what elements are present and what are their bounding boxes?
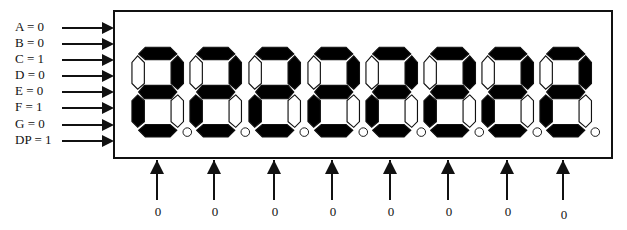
digit-8 bbox=[539, 43, 599, 143]
digit-3 bbox=[248, 43, 308, 143]
input-label-f: F = 1 bbox=[15, 100, 43, 114]
select-arrow-3 bbox=[273, 160, 275, 200]
select-label-5: 0 bbox=[381, 204, 401, 220]
digit-2 bbox=[189, 43, 249, 143]
input-label-dp: DP = 1 bbox=[15, 133, 51, 147]
select-label-2: 0 bbox=[205, 204, 225, 220]
select-label-6: 0 bbox=[439, 204, 459, 220]
select-label-7: 0 bbox=[498, 204, 518, 220]
select-label-3: 0 bbox=[265, 204, 285, 220]
input-label-d: D = 0 bbox=[15, 68, 45, 82]
select-label-8: 0 bbox=[554, 207, 574, 223]
input-label-g: G = 0 bbox=[15, 117, 45, 131]
input-arrow-d bbox=[62, 75, 102, 77]
select-arrow-6 bbox=[447, 160, 449, 200]
input-label-e: E = 0 bbox=[15, 84, 43, 98]
input-arrow-g bbox=[62, 124, 102, 126]
digit-7 bbox=[481, 43, 541, 143]
digit-6 bbox=[423, 43, 483, 143]
select-label-4: 0 bbox=[323, 204, 343, 220]
digit-1 bbox=[131, 43, 191, 143]
input-arrow-a bbox=[62, 27, 102, 29]
digit-4 bbox=[307, 43, 367, 143]
input-label-a: A = 0 bbox=[15, 20, 44, 34]
select-arrow-7 bbox=[506, 160, 508, 200]
select-label-1: 0 bbox=[148, 204, 168, 220]
input-arrow-e bbox=[62, 91, 102, 93]
select-arrow-4 bbox=[331, 160, 333, 200]
input-arrow-dp bbox=[62, 140, 102, 142]
input-label-c: C = 1 bbox=[15, 52, 44, 66]
select-arrow-1 bbox=[156, 160, 158, 200]
digit-5 bbox=[365, 43, 425, 143]
input-arrow-c bbox=[62, 59, 102, 61]
select-arrow-5 bbox=[389, 160, 391, 200]
input-label-b: B = 0 bbox=[15, 36, 44, 50]
input-arrow-b bbox=[62, 43, 102, 45]
select-arrow-8 bbox=[562, 160, 564, 200]
select-arrow-2 bbox=[213, 160, 215, 200]
input-arrow-f bbox=[62, 107, 102, 109]
